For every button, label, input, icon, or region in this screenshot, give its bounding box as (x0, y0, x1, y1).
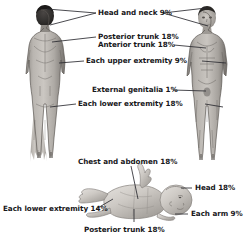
label-infant-posterior-trunk: Posterior trunk 18% (84, 226, 165, 235)
label-each-lower-extremity-infant: Each lower extremity 14% (3, 205, 108, 214)
label-layer: Head and neck 9% Posterior trunk 18% Ant… (0, 0, 250, 236)
label-anterior-trunk: Anterior trunk 18% (98, 41, 175, 50)
label-infant-head: Head 18% (195, 184, 235, 193)
label-head-and-neck: Head and neck 9% (98, 9, 172, 18)
label-each-lower-extremity-adult: Each lower extremity 18% (78, 100, 183, 109)
label-each-arm: Each arm 9% (191, 210, 243, 219)
label-each-upper-extremity: Each upper extremity 9% (86, 57, 187, 66)
label-external-genitalia: External genitalia 1% (92, 86, 178, 95)
label-chest-and-abdomen: Chest and abdomen 18% (78, 158, 177, 167)
rule-of-nines-diagram: Head and neck 9% Posterior trunk 18% Ant… (0, 0, 250, 236)
